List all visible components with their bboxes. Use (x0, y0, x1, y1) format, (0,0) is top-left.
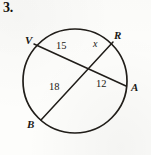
figure-page: 3. V R A B 15 x 12 18 (0, 0, 151, 155)
point-label-a: A (131, 82, 138, 93)
chord-v-a (34, 44, 126, 86)
geometry-figure (0, 0, 151, 155)
point-label-v: V (25, 35, 32, 46)
segment-measure-18: 18 (49, 82, 60, 93)
segment-measure-12: 12 (96, 79, 107, 90)
segment-measure-x: x (93, 39, 97, 50)
point-label-r: R (114, 30, 121, 41)
segment-measure-15: 15 (56, 41, 67, 52)
point-label-b: B (27, 119, 34, 130)
